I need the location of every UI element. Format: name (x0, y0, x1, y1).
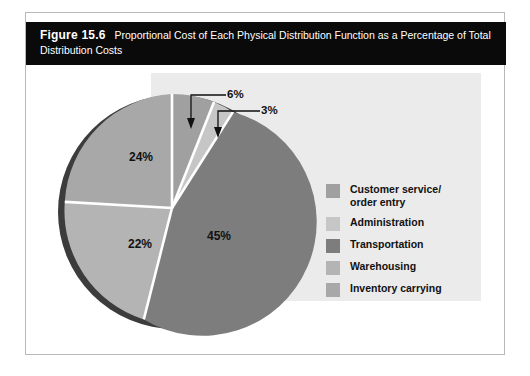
legend-item-inventory-carrying[interactable]: Inventory carrying (326, 282, 486, 297)
slice-value-label-warehousing: 22% (128, 237, 152, 251)
figure-frame: Figure 15.6 Proportional Cost of Each Ph… (25, 12, 505, 355)
legend-item-label: Customer service/ order entry (350, 183, 441, 209)
callout-value-label-customer-service: 6% (227, 88, 244, 100)
slice-value-label-inventory-carrying: 24% (129, 150, 153, 164)
chart-legend: Customer service/ order entry Administra… (326, 183, 486, 304)
legend-swatch-icon (326, 239, 340, 253)
legend-item-label: Administration (350, 216, 424, 229)
figure-title: Figure 15.6 Proportional Cost of Each Ph… (40, 28, 492, 58)
legend-item-label: Transportation (350, 238, 424, 251)
figure-title-bar: Figure 15.6 Proportional Cost of Each Ph… (26, 22, 506, 65)
legend-swatch-icon (326, 217, 340, 231)
pie-slice-inventory-carrying[interactable] (65, 94, 172, 208)
legend-swatch-icon (326, 261, 340, 275)
pie-chart-plot-area: 45% 22% 24% 6% 3% Customer service/ orde… (26, 65, 506, 356)
legend-item-transportation[interactable]: Transportation (326, 238, 486, 253)
slice-value-label-transportation: 45% (207, 229, 231, 243)
figure-number: Figure 15.6 (40, 28, 106, 42)
legend-item-label: Warehousing (350, 260, 416, 273)
legend-swatch-icon (326, 184, 340, 198)
legend-item-warehousing[interactable]: Warehousing (326, 260, 486, 275)
legend-swatch-icon (326, 283, 340, 297)
callout-value-label-administration: 3% (261, 104, 278, 116)
figure-caption: Proportional Cost of Each Physical Distr… (40, 29, 491, 56)
legend-item-administration[interactable]: Administration (326, 216, 486, 231)
legend-item-label: Inventory carrying (350, 282, 442, 295)
legend-item-customer-service[interactable]: Customer service/ order entry (326, 183, 486, 209)
